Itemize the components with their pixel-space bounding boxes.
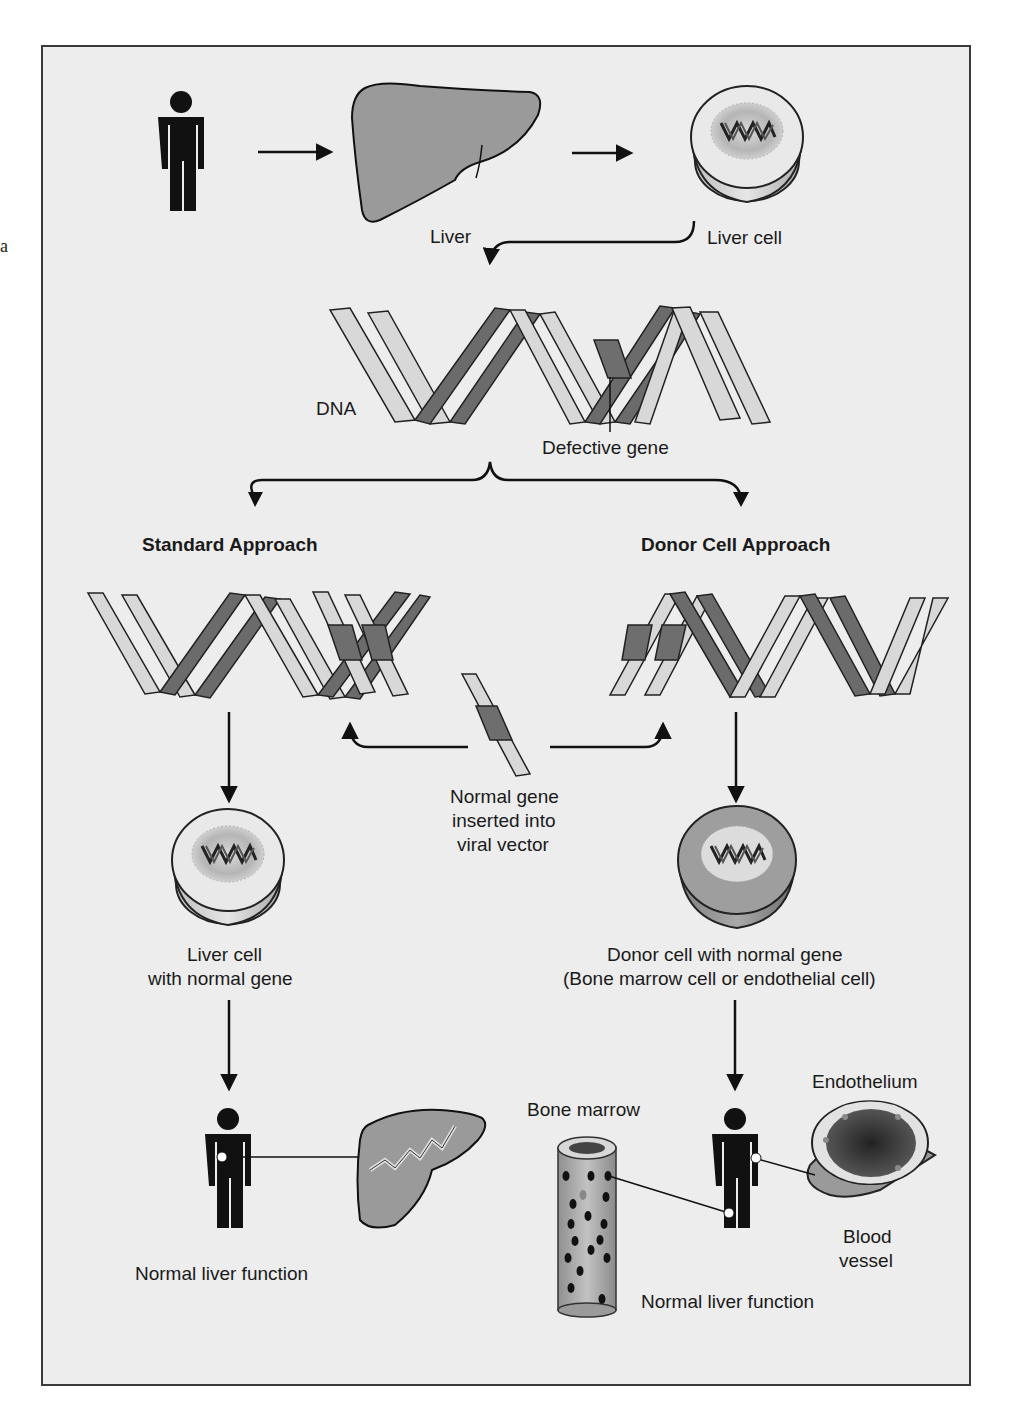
dna-helix-standard-corrected xyxy=(88,592,430,699)
bone-marrow-illustration xyxy=(558,1137,616,1317)
liver-with-corrected-dna-illustration xyxy=(358,1110,486,1228)
liver-cell-normal-gene-illustration xyxy=(172,809,284,925)
standard-cell-label-line1: Liver cell xyxy=(187,944,262,965)
patient-healed-person-icon xyxy=(205,1108,251,1228)
donor-cell-illustration xyxy=(678,806,796,928)
blood-vessel-label-line1: Blood xyxy=(843,1226,892,1247)
vector-label-line1: Normal gene xyxy=(450,786,559,807)
standard-cell-label-line2: with normal gene xyxy=(147,968,293,989)
patient-person-icon xyxy=(158,91,204,211)
liver-label: Liver xyxy=(430,226,472,247)
viral-vector-illustration xyxy=(462,674,530,776)
liver-marker-dot xyxy=(217,1152,227,1162)
curved-arrow-icon xyxy=(490,221,694,262)
liver-illustration xyxy=(352,83,540,221)
arrow-down-icon xyxy=(248,492,263,507)
connector-line xyxy=(761,1160,815,1175)
arrow-to-donor-icon xyxy=(550,725,663,747)
vessel-marker-dot xyxy=(751,1153,761,1163)
defective-gene-label: Defective gene xyxy=(542,437,669,458)
liver-cell-label: Liver cell xyxy=(707,227,782,248)
arrow-down-icon xyxy=(733,492,749,507)
bone-marrow-marker-dot xyxy=(724,1208,734,1218)
standard-outcome-label: Normal liver function xyxy=(135,1263,308,1284)
vector-label-line2: inserted into xyxy=(452,810,556,831)
blood-vessel-illustration xyxy=(808,1101,936,1197)
dna-label: DNA xyxy=(316,398,356,419)
vector-label-line3: viral vector xyxy=(457,834,550,855)
connector-line xyxy=(609,1176,729,1213)
endothelium-label: Endothelium xyxy=(812,1071,918,1092)
donor-approach-title: Donor Cell Approach xyxy=(641,534,830,555)
dna-helix-defective xyxy=(330,306,770,424)
donor-cell-label-line1: Donor cell with normal gene xyxy=(607,944,843,965)
standard-approach-title: Standard Approach xyxy=(142,534,318,555)
arrow-to-standard-icon xyxy=(350,725,468,747)
split-brace-arrow xyxy=(251,462,741,500)
blood-vessel-label-line2: vessel xyxy=(839,1250,893,1271)
liver-cell-illustration xyxy=(691,86,803,202)
gene-therapy-diagram: Liver Liver cell DNA Defective gene Stan… xyxy=(0,0,1011,1412)
dna-helix-donor-corrected xyxy=(610,592,948,697)
donor-outcome-label: Normal liver function xyxy=(641,1291,814,1312)
donor-cell-label-line2: (Bone marrow cell or endothelial cell) xyxy=(563,968,876,989)
bone-marrow-label: Bone marrow xyxy=(527,1099,640,1120)
